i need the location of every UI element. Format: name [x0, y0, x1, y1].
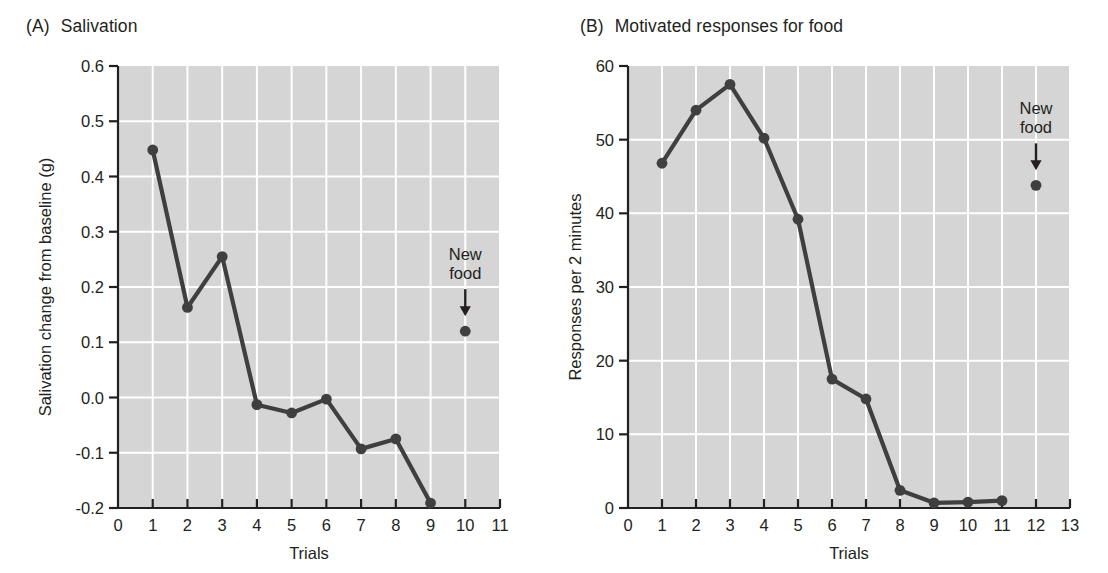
x-tick-label: 0 [623, 516, 632, 535]
x-tick-label: 11 [491, 516, 508, 535]
y-tick-label: 0.3 [81, 222, 104, 241]
x-tick-label: 3 [218, 516, 227, 535]
y-tick-label: 0 [605, 499, 614, 518]
x-axis-title: Trials [289, 544, 329, 563]
data-point [460, 326, 471, 337]
x-axis-title: Trials [829, 544, 869, 563]
x-tick-label: 13 [1061, 516, 1079, 535]
x-tick-label: 8 [895, 516, 904, 535]
data-point [725, 79, 736, 90]
data-point [827, 374, 838, 385]
y-tick-label: 60 [596, 57, 614, 76]
y-tick-label: 0.4 [81, 167, 104, 186]
data-point [217, 251, 228, 262]
data-point [252, 399, 263, 410]
x-tick-label: 4 [252, 516, 261, 535]
annotation-line-1: New [1019, 99, 1052, 117]
x-tick-label: 0 [113, 516, 122, 535]
data-point [963, 497, 974, 508]
y-axis-title: Responses per 2 minutes [566, 66, 585, 508]
x-tick-label: 7 [861, 516, 870, 535]
data-point [182, 302, 193, 313]
annotation-line-2: food [449, 264, 482, 282]
y-tick-label: 10 [596, 425, 614, 444]
y-tick-label: 0.5 [81, 112, 104, 131]
x-tick-label: 7 [356, 516, 365, 535]
data-point [321, 394, 332, 405]
y-tick-label: -0.2 [76, 499, 104, 518]
x-tick-label: 6 [827, 516, 836, 535]
data-point [759, 133, 770, 144]
data-point [147, 145, 158, 156]
data-point [390, 434, 401, 445]
data-point [286, 408, 297, 419]
x-tick-label: 2 [691, 516, 700, 535]
data-point [1031, 180, 1042, 191]
x-tick-label: 9 [929, 516, 938, 535]
new-food-annotation: Newfood [1019, 99, 1052, 136]
y-tick-label: -0.1 [76, 443, 104, 462]
data-point [657, 158, 668, 169]
data-point [691, 105, 702, 116]
new-food-annotation: Newfood [449, 245, 482, 282]
y-tick-label: 20 [596, 351, 614, 370]
data-point [793, 214, 804, 225]
y-tick-label: 0.6 [81, 57, 104, 76]
x-tick-label: 6 [322, 516, 331, 535]
data-point [929, 497, 940, 508]
x-tick-label: 10 [959, 516, 977, 535]
data-point [997, 495, 1008, 506]
x-tick-label: 5 [287, 516, 296, 535]
data-point [895, 485, 906, 496]
annotation-line-2: food [1019, 118, 1052, 136]
x-tick-label: 1 [657, 516, 666, 535]
x-tick-label: 5 [793, 516, 802, 535]
data-point [425, 498, 436, 509]
x-tick-label: 3 [725, 516, 734, 535]
y-tick-label: 40 [596, 204, 614, 223]
panel-b: (B)Motivated responses for food 01020304… [554, 0, 1108, 573]
data-point [356, 443, 367, 454]
panel-a: (A)Salivation -0.2-0.10.00.10.20.30.40.5… [0, 0, 554, 573]
annotation-line-1: New [449, 245, 482, 263]
x-tick-label: 10 [456, 516, 474, 535]
y-axis-title: Salivation change from baseline (g) [36, 66, 55, 508]
data-point [861, 394, 872, 405]
x-tick-label: 9 [426, 516, 435, 535]
y-tick-label: 0.1 [81, 333, 104, 352]
x-tick-label: 8 [391, 516, 400, 535]
panel-b-plot [554, 0, 1108, 573]
y-tick-label: 0.2 [81, 278, 104, 297]
x-tick-label: 2 [183, 516, 192, 535]
figure: (A)Salivation -0.2-0.10.00.10.20.30.40.5… [0, 0, 1108, 573]
y-tick-label: 50 [596, 130, 614, 149]
y-tick-label: 30 [596, 278, 614, 297]
y-tick-label: 0.0 [81, 388, 104, 407]
x-tick-label: 4 [759, 516, 768, 535]
x-tick-label: 11 [993, 516, 1010, 535]
x-tick-label: 1 [148, 516, 157, 535]
x-tick-label: 12 [1027, 516, 1045, 535]
